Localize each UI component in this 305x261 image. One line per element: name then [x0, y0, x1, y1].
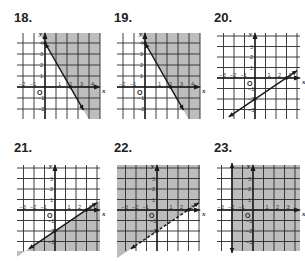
y-tick-label: 4 — [40, 40, 43, 46]
x-tick-label: −2 — [30, 204, 36, 210]
y-axis-label: y — [48, 162, 53, 170]
y-intercept-point — [43, 41, 47, 45]
x-tick-label: −3 — [122, 204, 128, 210]
y-axis-arrow-icon — [253, 32, 258, 39]
y-axis-label: y — [248, 30, 253, 38]
x-tick-label: 1 — [68, 204, 71, 210]
y-tick-label: 2 — [140, 62, 143, 68]
y-tick-label: −2 — [138, 106, 144, 112]
x-tick-label: 2 — [278, 72, 281, 78]
x-tick-label: −3 — [20, 204, 26, 210]
y-tick-label: −1 — [248, 86, 254, 92]
y-intercept-point — [143, 41, 147, 45]
y-tick-label: −3 — [248, 107, 254, 113]
x-tick-label: 3 — [180, 81, 183, 87]
x-tick-label: 4 — [191, 81, 194, 87]
y-tick-label: −1 — [150, 218, 156, 224]
x-tick-label: −1 — [239, 204, 245, 210]
x-tick-label: 2 — [276, 204, 279, 210]
graph-panel-23: 23. xyO−3−2−1123321−1−2−3 — [200, 130, 302, 260]
y-tick-label: 3 — [140, 51, 143, 57]
y-intercept-point — [155, 229, 159, 233]
x-tick-label: 1 — [170, 204, 173, 210]
x-axis-label: x — [301, 78, 305, 86]
y-intercept-point — [53, 229, 57, 233]
x-tick-label: −3 — [220, 72, 226, 78]
y-tick-label: 3 — [50, 176, 53, 182]
graph-panel-21: 21. xyO−3−2−1123321−1−2−3 — [0, 130, 102, 260]
x-intercept-point — [69, 85, 73, 89]
y-tick-label: −2 — [38, 106, 44, 112]
x-intercept-point — [187, 208, 191, 212]
graph-21: xyO−3−2−1123321−1−2−3 — [0, 130, 102, 260]
x-intercept-point — [169, 85, 173, 89]
y-tick-label: 4 — [140, 40, 143, 46]
y-axis-arrow-icon — [53, 164, 58, 171]
y-tick-label: −1 — [48, 218, 54, 224]
x-tick-label: −2 — [230, 72, 236, 78]
x-intercept-point — [285, 76, 289, 80]
y-tick-label: 1 — [250, 65, 253, 71]
x-tick-label: −1 — [41, 204, 47, 210]
x-axis-arrow-icon — [294, 76, 301, 81]
graph-panel-20: 20. xyO−3−2−1123321−1−2−3 — [200, 0, 302, 130]
y-tick-label: 2 — [250, 54, 253, 60]
y-tick-label: 2 — [40, 62, 43, 68]
x-tick-label: 2 — [78, 204, 81, 210]
graph-18: xyO−2−112344321−1−2 — [0, 0, 102, 130]
y-tick-label: 2 — [152, 186, 155, 192]
x-tick-label: 2 — [180, 204, 183, 210]
x-tick-label: 3 — [287, 204, 290, 210]
graph-panel-22: 22. xyO−3−2−1123321−1−2 — [100, 130, 202, 260]
y-tick-label: 1 — [40, 73, 43, 79]
y-tick-label: 1 — [152, 197, 155, 203]
graph-22: xyO−3−2−1123321−1−2 — [100, 130, 202, 260]
x-tick-label: 1 — [58, 81, 61, 87]
y-tick-label: 3 — [250, 44, 253, 50]
x-tick-label: 4 — [91, 81, 94, 87]
x-axis-label: x — [301, 210, 305, 218]
x-tick-label: 3 — [80, 81, 83, 87]
graph-panel-19: 19. xyO−2−112344321−1−2 — [100, 0, 202, 130]
x-tick-label: −1 — [241, 72, 247, 78]
x-tick-label: −1 — [130, 81, 136, 87]
y-tick-label: 3 — [248, 176, 251, 182]
x-tick-label: 1 — [266, 204, 269, 210]
y-tick-label: −1 — [138, 95, 144, 101]
y-tick-label: 1 — [248, 197, 251, 203]
y-tick-label: −3 — [246, 239, 252, 245]
x-tick-label: −1 — [30, 81, 36, 87]
x-tick-label: −2 — [19, 81, 25, 87]
y-tick-label: 2 — [50, 186, 53, 192]
x-tick-label: 1 — [158, 81, 161, 87]
y-intercept-point — [253, 97, 257, 101]
x-tick-label: −2 — [228, 204, 234, 210]
graph-23: xyO−3−2−1123321−1−2−3 — [200, 130, 302, 260]
x-tick-label: −1 — [143, 204, 149, 210]
y-tick-label: 3 — [152, 176, 155, 182]
shaded-region — [117, 165, 200, 258]
x-intercept-point — [85, 208, 89, 212]
graph-20: xyO−3−2−1123321−1−2−3 — [200, 0, 302, 130]
y-tick-label: −1 — [38, 95, 44, 101]
x-tick-label: −2 — [119, 81, 125, 87]
y-tick-label: 1 — [50, 197, 53, 203]
graph-19: xyO−2−112344321−1−2 — [100, 0, 202, 130]
graph-panel-18: 18. xyO−2−112344321−1−2 — [0, 0, 102, 130]
y-tick-label: −2 — [246, 228, 252, 234]
x-tick-label: 1 — [268, 72, 271, 78]
y-tick-label: 2 — [248, 186, 251, 192]
y-tick-label: 3 — [40, 51, 43, 57]
y-tick-label: 1 — [140, 73, 143, 79]
y-tick-label: −3 — [48, 239, 54, 245]
x-tick-label: −2 — [132, 204, 138, 210]
y-tick-label: −1 — [246, 218, 252, 224]
x-tick-label: −3 — [218, 204, 224, 210]
